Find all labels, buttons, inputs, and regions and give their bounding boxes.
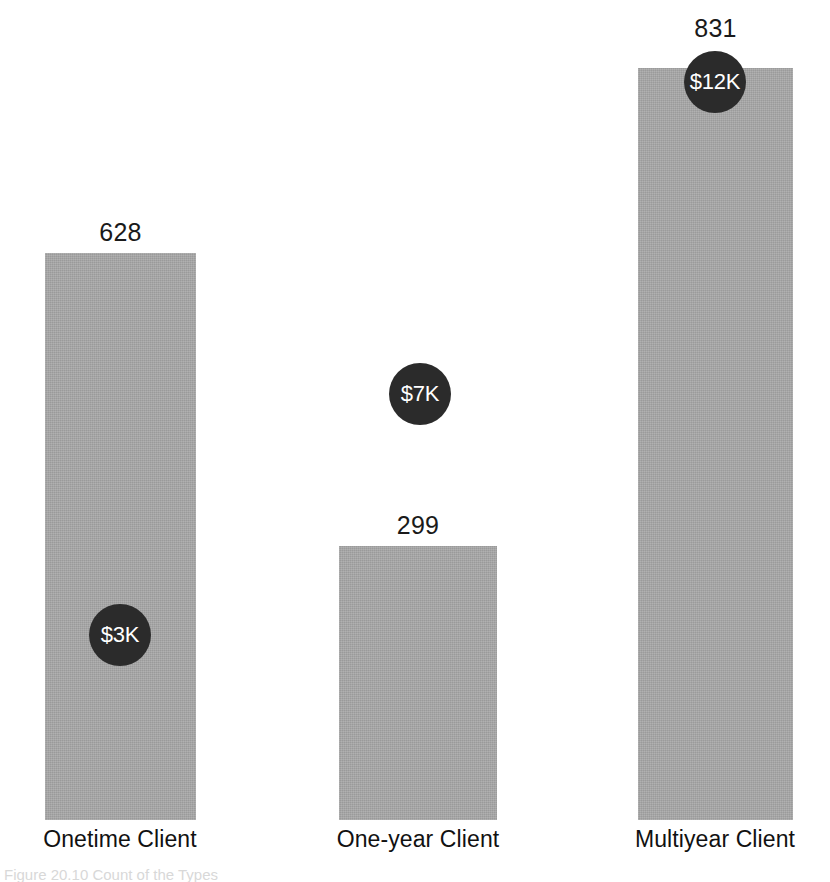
category-label-multiyear: Multiyear Client xyxy=(615,826,815,853)
money-badge-multiyear[interactable]: $12K xyxy=(684,51,746,113)
bar-multiyear-client[interactable] xyxy=(638,68,793,820)
category-label-onetime: Onetime Client xyxy=(20,826,220,853)
figure-caption-clipped: Figure 20.10 Count of the Types xyxy=(4,866,218,882)
money-badge-one-year[interactable]: $7K xyxy=(389,363,451,425)
bar-value-label-one-year: 299 xyxy=(339,511,497,540)
bar-one-year-client[interactable] xyxy=(339,546,497,820)
category-label-one-year: One-year Client xyxy=(318,826,518,853)
bar-chart: 628 $3K Onetime Client 299 $7K One-year … xyxy=(0,0,830,882)
bar-value-label-onetime: 628 xyxy=(45,218,196,247)
bar-value-label-multiyear: 831 xyxy=(638,14,793,43)
money-badge-onetime[interactable]: $3K xyxy=(89,604,151,666)
bar-onetime-client[interactable] xyxy=(45,253,196,820)
